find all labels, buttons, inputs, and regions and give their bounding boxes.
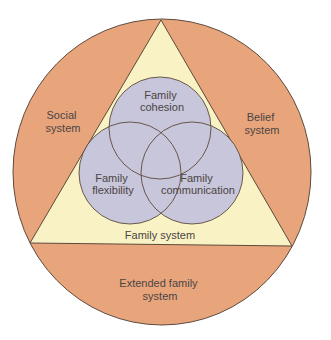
family-flexibility-label: Family flexibility: [92, 172, 134, 196]
belief-system-label: Belief system: [245, 111, 280, 136]
family-system-label: Family system: [125, 229, 195, 241]
family-cohesion-label: Family cohesion: [140, 89, 184, 113]
family-systems-diagram: Social system Belief system Extended fam…: [0, 0, 331, 340]
social-system-label: Social system: [46, 109, 81, 134]
